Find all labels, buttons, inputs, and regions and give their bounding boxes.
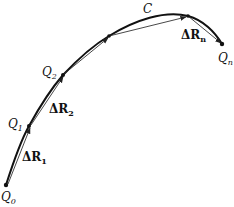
point-q0 [4, 183, 8, 187]
point-q2 [61, 73, 65, 77]
curve-diagram: C Q0 Q1 Q2 Qn ΔR1 ΔR2 ΔRn [0, 0, 234, 207]
point-4 [186, 14, 190, 18]
label-delta-rn: ΔRn [181, 29, 206, 43]
curve-label: C [143, 3, 152, 15]
label-delta-r2: ΔR2 [49, 103, 74, 117]
label-delta-r1: ΔR1 [22, 151, 47, 165]
label-q2: Q2 [42, 66, 57, 81]
vector-chord-3 [64, 38, 108, 74]
point-qn [220, 42, 224, 46]
label-q0: Q0 [1, 191, 16, 206]
point-3 [107, 34, 111, 38]
vector-delta-r2 [31, 77, 63, 125]
vector-chord-4 [109, 17, 186, 36]
point-q1 [27, 124, 31, 128]
label-q1: Q1 [8, 118, 23, 133]
label-qn: Qn [218, 52, 233, 67]
